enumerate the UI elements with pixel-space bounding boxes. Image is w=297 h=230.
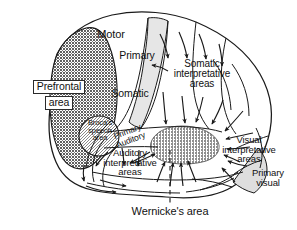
label-somatic-interpretative: Somatic interpretative areas bbox=[162, 59, 242, 90]
brain-illustration bbox=[0, 0, 297, 230]
label-visual-interpretative-line3: areas bbox=[212, 154, 286, 164]
label-prefrontal-line2: area bbox=[45, 96, 74, 110]
label-somatic-interpretative-line3: areas bbox=[162, 79, 242, 89]
label-primary-visual: Primary visual bbox=[241, 168, 295, 187]
label-auditory-interpretative-line3: areas bbox=[92, 167, 168, 177]
label-visual-interpretative: Visual interpretative areas bbox=[212, 135, 286, 164]
label-wernicke-area: Wernicke's area bbox=[110, 206, 230, 217]
label-prefrontal-area: Prefrontal area bbox=[26, 80, 92, 110]
label-motor: Motor bbox=[86, 29, 136, 40]
label-primary-motor: Primary bbox=[111, 50, 163, 61]
brain-diagram-figure: Motor Primary Somatic Somatic interpreta… bbox=[0, 0, 297, 230]
label-somatic: Somatic bbox=[104, 88, 156, 99]
label-auditory-interpretative: Auditory interpretative areas bbox=[92, 148, 168, 177]
label-primary-visual-line2: visual bbox=[241, 178, 295, 188]
label-prefrontal-line1: Prefrontal bbox=[33, 80, 86, 94]
